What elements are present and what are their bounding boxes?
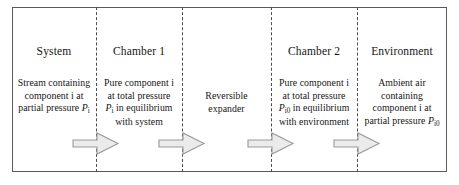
text-line: Ambient air [357, 77, 447, 90]
text-line: component i at [357, 102, 447, 115]
variable-symbol: Pi [82, 102, 90, 113]
flow-arrow-3 [247, 131, 295, 156]
column-body-chamber-2: Pure component iat total pressurePi0 in … [271, 77, 357, 128]
text-line: Reversible [182, 90, 271, 103]
text-line: Pure component i [96, 77, 182, 90]
text-line: Pi in equilibrium [96, 102, 182, 116]
column-body-environment: Ambient aircontainingcomponent i atparti… [357, 77, 447, 128]
variable-symbol: Pi0 [279, 102, 291, 113]
variable-subscript: i [112, 107, 114, 115]
text-line: at total pressure [96, 90, 182, 103]
variable-subscript: i [88, 107, 90, 115]
text-line: with environment [271, 116, 357, 129]
column-title-environment: Environment [357, 45, 447, 58]
text-line: component i at [12, 90, 96, 103]
column-title-system: System [12, 45, 96, 58]
text-line: partial pressure Pi0 [357, 115, 447, 129]
flow-arrow-2 [158, 131, 206, 156]
text-line: Pi0 in equilibrium [271, 102, 357, 116]
variable-symbol: Pi0 [428, 115, 440, 126]
column-body-expander: Reversibleexpander [182, 90, 271, 115]
text-line: expander [182, 103, 271, 116]
process-flow-diagram: System Stream containingcomponent i atpa… [0, 0, 459, 185]
column-body-system: Stream containingcomponent i atpartial p… [12, 77, 96, 116]
text-line: with system [96, 116, 182, 129]
flow-arrow-4 [333, 131, 381, 156]
text-line: Stream containing [12, 77, 96, 90]
column-body-chamber-1: Pure component iat total pressurePi in e… [96, 77, 182, 128]
variable-subscript: i0 [285, 107, 291, 115]
text-line: containing [357, 90, 447, 103]
flow-arrow-1 [72, 131, 120, 156]
text-line: partial pressure Pi [12, 102, 96, 116]
column-title-chamber-1: Chamber 1 [96, 45, 182, 58]
variable-subscript: i0 [434, 120, 440, 128]
text-line: Pure component i [271, 77, 357, 90]
text-line: at total pressure [271, 90, 357, 103]
variable-symbol: Pi [105, 102, 113, 113]
column-title-chamber-2: Chamber 2 [271, 45, 357, 58]
